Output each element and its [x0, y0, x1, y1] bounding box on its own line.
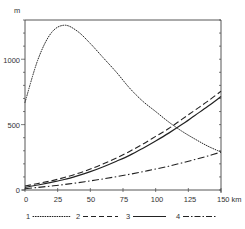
series-4-dash-dot-line — [25, 152, 221, 189]
y-axis-ticks — [21, 20, 25, 190]
series-1-dotted-line — [25, 25, 221, 152]
legend-item-2: 2 — [76, 212, 118, 221]
legend-label: 1 — [26, 212, 30, 221]
series-lines — [25, 25, 221, 188]
x-tick-label: 100 — [151, 195, 164, 204]
x-tick-label: 50 — [87, 195, 95, 204]
legend-item-3: 3 — [126, 212, 166, 221]
series-2-dashed-line — [25, 91, 221, 186]
x-tick-label: 125 — [184, 195, 197, 204]
legend-item-4: 4 — [176, 212, 216, 221]
legend-label: 4 — [176, 212, 180, 221]
legend-label: 2 — [76, 212, 80, 221]
legend: 1 2 3 4 — [26, 212, 216, 221]
plot-frame — [22, 20, 221, 193]
line-chart: m 1000 500 0 0 25 50 75 100 125 150 km 1 — [0, 0, 245, 229]
x-tick-label: 75 — [120, 195, 128, 204]
y-tick-label: 0 — [16, 186, 20, 195]
legend-item-1: 1 — [26, 212, 70, 221]
x-axis-tick-labels: 0 25 50 75 100 125 150 km — [24, 195, 242, 204]
y-tick-label: 500 — [7, 121, 20, 130]
y-axis-tick-labels: 1000 500 0 — [3, 56, 20, 195]
y-axis-unit-label: m — [14, 6, 20, 15]
series-3-solid-line — [25, 97, 221, 188]
legend-label: 3 — [126, 212, 130, 221]
x-tick-label: 150 km — [217, 195, 242, 204]
y-tick-label: 1000 — [3, 56, 20, 65]
x-tick-label: 25 — [54, 195, 62, 204]
x-tick-label: 0 — [24, 195, 28, 204]
